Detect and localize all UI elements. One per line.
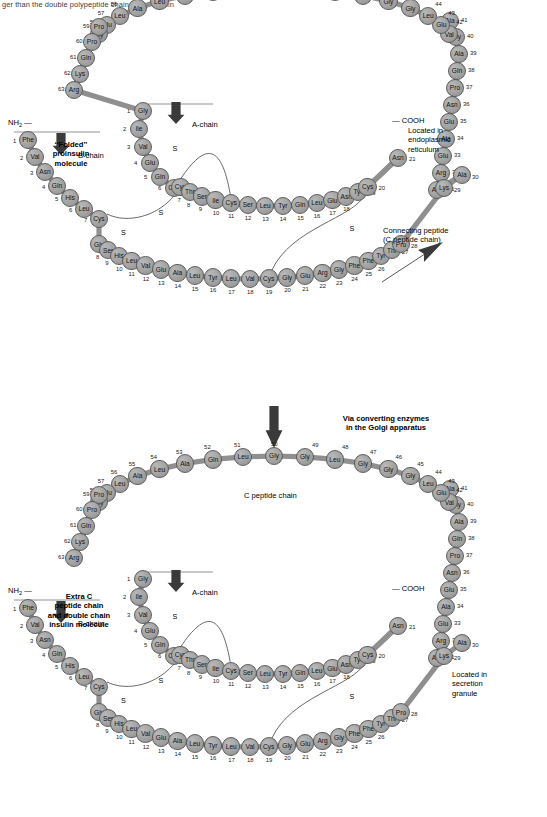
residue-number: 63 [58, 554, 65, 560]
residue-label: Cys [225, 667, 236, 674]
c-peptide-residue: Leu [326, 0, 344, 1]
residue-label: Gly [138, 575, 148, 582]
disulfide-b7-label: S [121, 228, 126, 237]
residue-number: 36 [463, 569, 470, 575]
residue-number: 35 [460, 586, 467, 592]
residue-number: 24 [351, 744, 358, 750]
residue-number: 39 [470, 518, 477, 524]
residue-label: Gln [295, 201, 305, 208]
residue-label: Val [141, 730, 150, 737]
residue-number: 6 [69, 207, 72, 213]
b-chain-residue: Ala [453, 634, 471, 652]
connecting-peptide-label: Connecting peptide (C peptide chain) [383, 226, 513, 245]
residue-number: 28 [411, 711, 418, 717]
c-peptide-residue: Leu [234, 448, 252, 466]
residue-label: Ser [197, 193, 207, 200]
residue-label: His [65, 662, 75, 669]
c-peptide-residue: Gly [379, 0, 397, 10]
c-peptide-residue: Gln [204, 0, 222, 1]
c-peptide-residue: Asn [443, 564, 461, 582]
c-peptide-residue: Ala [128, 467, 146, 485]
a-chain-label: A-chain [192, 588, 218, 597]
b-chain-residue: Cys [90, 678, 108, 696]
residue-label: Tyr [278, 202, 287, 209]
residue-label: Gln [155, 641, 165, 648]
residue-label: Gln [52, 650, 62, 657]
b-chain-residue: Cys [260, 269, 278, 287]
b-chain-residue: Arg [313, 732, 331, 750]
b-chain-residue: Val [241, 270, 259, 288]
residue-label: Ser [243, 669, 253, 676]
residue-number: 5 [144, 642, 147, 648]
residue-label: Cys [362, 183, 373, 190]
c-peptide-residue: Ala [437, 598, 455, 616]
residue-number: 59 [83, 23, 90, 29]
b-chain-residue: Tyr [204, 268, 222, 286]
residue-number: 7 [84, 217, 87, 223]
residue-label: Gln [208, 456, 218, 463]
c-peptide-residue: Gly [354, 454, 372, 472]
a-chain-residue: Cys [222, 662, 240, 680]
nh2-terminus-label: NH2 — [8, 118, 32, 128]
residue-number: 57 [98, 10, 105, 16]
a-chain-residue: Leu [256, 197, 274, 215]
residue-number: 3 [127, 144, 130, 150]
residue-label: Gln [52, 182, 62, 189]
residue-label: Leu [154, 465, 165, 472]
converting-enzymes-label: Via converting enzymes in the Golgi appa… [296, 414, 476, 433]
a-chain-residue: Leu [256, 665, 274, 683]
residue-number: 60 [76, 506, 83, 512]
residue-number: 11 [129, 739, 135, 745]
disulfide-b7-label: S [121, 696, 126, 705]
residue-label: Ala [454, 518, 464, 525]
residue-label: Gln [452, 535, 462, 542]
residue-label: Arg [69, 86, 79, 93]
a-chain-residue: Ile [130, 120, 148, 138]
residue-number: 16 [314, 681, 321, 687]
c-peptide-residue: Asn [443, 96, 461, 114]
residue-number: 61 [70, 522, 77, 528]
residue-number: 18 [343, 206, 350, 212]
c-peptide-residue: Pro [446, 547, 464, 565]
residue-label: Asn [392, 622, 403, 629]
residue-number: 15 [192, 286, 199, 292]
residue-number: 13 [158, 280, 165, 286]
residue-number: 20 [284, 755, 291, 761]
residue-number: 40 [467, 501, 474, 507]
residue-label: Pro [450, 84, 460, 91]
a-chain-residue: Cys [358, 178, 376, 196]
residue-label: Asn [39, 636, 50, 643]
residue-label: Ala [173, 269, 183, 276]
residue-number: 9 [105, 728, 108, 734]
residue-number: 63 [58, 86, 65, 92]
b-chain-residue: Cys [90, 210, 108, 228]
residue-label: Ala [133, 472, 143, 479]
residue-label: Gly [269, 452, 279, 459]
residue-number: 45 [417, 461, 424, 467]
residue-number: 5 [55, 664, 58, 670]
residue-label: Leu [238, 453, 249, 460]
residue-number: 38 [468, 67, 475, 73]
b-chain-residue: Leu [186, 266, 204, 284]
residue-number: 39 [470, 50, 477, 56]
located-er-label: Located in endoplasmic reticulum [408, 126, 518, 154]
residue-label: Leu [329, 456, 340, 463]
residue-number: 21 [409, 156, 416, 162]
residue-number: 19 [266, 757, 273, 763]
residue-number: 53 [176, 449, 183, 455]
residue-number: 20 [379, 185, 386, 191]
residue-label: Leu [226, 275, 237, 282]
residue-number: 25 [365, 271, 372, 277]
residue-label: His [65, 194, 75, 201]
a-chain-residue: Ser [239, 664, 257, 682]
residue-label: Ala [180, 460, 190, 467]
residue-label: Val [245, 743, 254, 750]
residue-number: 30 [472, 174, 479, 180]
residue-label: Asn [446, 101, 457, 108]
residue-label: Glu [300, 272, 310, 279]
b-chain-residue: Glu [296, 734, 314, 752]
b-chain-residue: Val [241, 738, 259, 756]
residue-label: Pro [87, 506, 97, 513]
residue-label: Glu [300, 740, 310, 747]
residue-number: 62 [64, 538, 71, 544]
